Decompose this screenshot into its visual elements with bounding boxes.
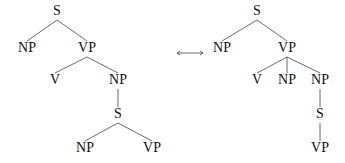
bidirectional-arrow-icon <box>177 51 203 55</box>
right-tree-edge <box>257 57 287 73</box>
right-tree-node-np: NP <box>213 40 231 55</box>
left-tree-edge <box>118 123 152 141</box>
right-tree-node-np: NP <box>311 72 329 87</box>
right-tree-node-vp: VP <box>278 40 296 55</box>
diagram-svg: SNPVPVNPSNPVPSNPVPVNPNPSVP <box>0 0 345 163</box>
left-tree-node-vp: VP <box>143 140 161 155</box>
left-tree-node-s: S <box>114 106 122 121</box>
right-tree-node-s: S <box>253 3 261 18</box>
left-tree-edge <box>87 57 118 73</box>
right-tree-node-np: NP <box>278 72 296 87</box>
left-tree-node-s: S <box>53 3 61 18</box>
right-tree-edge <box>222 20 257 41</box>
left-tree-edge <box>27 20 57 41</box>
left-tree-edge <box>85 123 118 141</box>
right-tree-edge <box>287 57 320 73</box>
left-tree-node-np: NP <box>18 40 36 55</box>
left-tree-edge <box>57 20 87 41</box>
syntax-tree-diagram: SNPVPVNPSNPVPSNPVPVNPNPSVP <box>0 0 345 163</box>
left-tree-node-v: V <box>50 72 60 87</box>
right-tree-node-s: S <box>316 106 324 121</box>
right-tree-node-vp: VP <box>311 140 329 155</box>
left-tree-node-np: NP <box>109 72 127 87</box>
right-tree-node-v: V <box>252 72 262 87</box>
tree-edges <box>27 20 320 141</box>
right-tree-edge <box>257 20 287 41</box>
left-tree-node-np: NP <box>76 140 94 155</box>
left-tree-node-vp: VP <box>78 40 96 55</box>
left-tree-edge <box>55 57 87 73</box>
